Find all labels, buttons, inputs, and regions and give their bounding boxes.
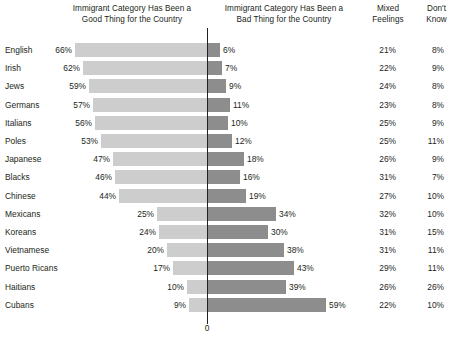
dont-know-value: 9% [414, 154, 444, 164]
chart-row: Japanese47%18%26%9% [0, 150, 461, 168]
bad-thing-cell: 6% [208, 41, 235, 59]
bad-thing-value: 7% [225, 63, 237, 73]
mixed-feelings-value: 31% [362, 227, 396, 237]
good-thing-bar [187, 280, 207, 294]
bad-thing-bar [208, 280, 286, 294]
column-header-dont-know-line1: Don't [414, 4, 459, 15]
bad-thing-bar [208, 152, 244, 166]
chart-row: Mexicans25%34%32%10% [0, 205, 461, 223]
mixed-feelings-value: 23% [362, 100, 396, 110]
bad-thing-value: 16% [243, 172, 260, 182]
bad-thing-bar [208, 98, 230, 112]
row-label: Blacks [5, 172, 30, 182]
good-thing-value: 59% [69, 81, 86, 91]
column-header-dont-know: Don't Know [414, 4, 459, 25]
good-thing-value: 44% [99, 191, 116, 201]
row-label: Koreans [5, 227, 36, 237]
good-thing-bar [115, 170, 207, 184]
bad-thing-value: 19% [249, 191, 266, 201]
bad-thing-value: 30% [271, 227, 288, 237]
mixed-feelings-value: 22% [362, 63, 396, 73]
good-thing-cell: 62% [63, 59, 207, 77]
good-thing-cell: 59% [69, 77, 207, 95]
good-thing-value: 20% [147, 245, 164, 255]
dont-know-value: 10% [414, 300, 444, 310]
column-header-mixed-feelings-line1: Mixed [362, 4, 414, 15]
row-label: Italians [5, 118, 32, 128]
dont-know-value: 8% [414, 100, 444, 110]
row-label: English [5, 45, 32, 55]
good-thing-cell: 47% [93, 150, 207, 168]
good-thing-bar [167, 243, 207, 257]
column-header-bad-thing: Immigrant Category Has Been a Bad Thing … [208, 4, 360, 25]
dont-know-value: 8% [414, 45, 444, 55]
bad-thing-bar [208, 43, 220, 57]
good-thing-value: 56% [75, 118, 92, 128]
bad-thing-cell: 16% [208, 168, 260, 186]
bad-thing-bar [208, 116, 228, 130]
dont-know-value: 9% [414, 63, 444, 73]
bad-thing-cell: 59% [208, 296, 346, 314]
good-thing-cell: 46% [95, 168, 207, 186]
good-thing-value: 9% [174, 300, 186, 310]
bad-thing-cell: 19% [208, 187, 266, 205]
column-header-good-thing-line2: Good Thing for the Country [56, 15, 208, 26]
chart-row: Blacks46%16%31%7% [0, 168, 461, 186]
column-header-mixed-feelings: Mixed Feelings [362, 4, 414, 25]
chart-row: Poles53%12%25%11% [0, 132, 461, 150]
row-label: Germans [5, 100, 39, 110]
good-thing-bar [189, 298, 207, 312]
chart-row: Haitians10%39%26%26% [0, 277, 461, 295]
bad-thing-value: 39% [289, 282, 306, 292]
good-thing-value: 24% [139, 227, 156, 237]
chart-row: Chinese44%19%27%10% [0, 187, 461, 205]
good-thing-value: 10% [167, 282, 184, 292]
good-thing-bar [93, 98, 207, 112]
chart-row: Italians56%10%25%9% [0, 114, 461, 132]
mixed-feelings-value: 25% [362, 118, 396, 128]
good-thing-bar [157, 207, 207, 221]
good-thing-value: 53% [81, 136, 98, 146]
zero-axis-label: 0 [198, 323, 216, 333]
mixed-feelings-value: 29% [362, 263, 396, 273]
good-thing-value: 25% [137, 209, 154, 219]
bad-thing-bar [208, 225, 268, 239]
dont-know-value: 15% [414, 227, 444, 237]
dont-know-value: 9% [414, 118, 444, 128]
mixed-feelings-value: 32% [362, 209, 396, 219]
dont-know-value: 11% [414, 245, 444, 255]
good-thing-cell: 17% [153, 259, 207, 277]
chart-row: English66%6%21%8% [0, 41, 461, 59]
bad-thing-value: 18% [247, 154, 264, 164]
bad-thing-bar [208, 261, 294, 275]
mixed-feelings-value: 26% [362, 154, 396, 164]
bad-thing-bar [208, 61, 222, 75]
row-label: Vietnamese [5, 245, 49, 255]
good-thing-cell: 44% [99, 187, 207, 205]
good-thing-cell: 25% [137, 205, 207, 223]
bad-thing-value: 34% [279, 209, 296, 219]
good-thing-bar [89, 79, 207, 93]
row-label: Puerto Ricans [5, 263, 58, 273]
chart-row: Puerto Ricans17%43%29%11% [0, 259, 461, 277]
dont-know-value: 11% [414, 263, 444, 273]
chart-row: Germans57%11%23%8% [0, 96, 461, 114]
good-thing-value: 66% [55, 45, 72, 55]
column-header-mixed-feelings-line2: Feelings [362, 15, 414, 26]
dont-know-value: 26% [414, 282, 444, 292]
bad-thing-value: 9% [229, 81, 241, 91]
mixed-feelings-value: 27% [362, 191, 396, 201]
bad-thing-cell: 11% [208, 96, 249, 114]
good-thing-value: 47% [93, 154, 110, 164]
row-label: Mexicans [5, 209, 40, 219]
bad-thing-cell: 39% [208, 277, 306, 295]
bad-thing-value: 6% [223, 45, 235, 55]
bad-thing-cell: 10% [208, 114, 248, 132]
row-label: Poles [5, 136, 26, 146]
bad-thing-cell: 18% [208, 150, 264, 168]
good-thing-value: 62% [63, 63, 80, 73]
mixed-feelings-value: 21% [362, 45, 396, 55]
row-label: Japanese [5, 154, 41, 164]
good-thing-bar [101, 134, 207, 148]
good-thing-bar [113, 152, 207, 166]
